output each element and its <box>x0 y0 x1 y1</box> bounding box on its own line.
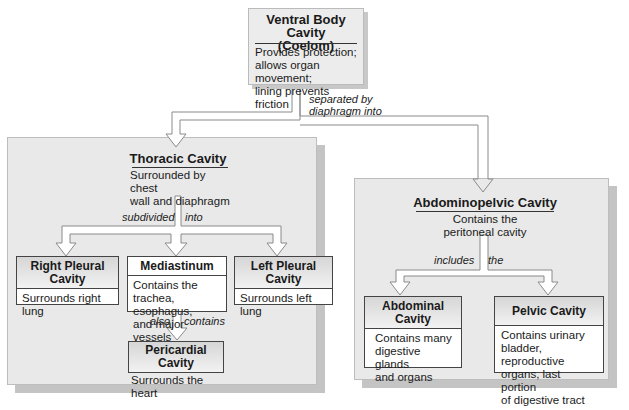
mediastinum-box: Mediastinum Contains the trachea, esopha… <box>127 256 227 312</box>
separated-by-line2: diaphragm into <box>309 105 382 117</box>
includes-label: includes <box>434 254 474 266</box>
pelvic-desc-line: Contains urinary <box>501 329 598 342</box>
ventral-desc-line: allows organ movement; <box>255 59 361 85</box>
abdominopelvic-description: Contains the peritoneal cavity <box>420 213 550 239</box>
pelvic-desc-line: bladder, reproductive <box>501 342 598 368</box>
thoracic-description: Surrounded by chest wall and diaphragm <box>130 169 230 208</box>
separated-by-label: separated by diaphragm into <box>309 93 382 117</box>
ventral-title-line1: Ventral Body Cavity <box>249 13 363 39</box>
right-pleural-title: Right Pleural Cavity <box>17 257 118 289</box>
abdominal-description: Contains many digestive glands and organ… <box>365 329 461 387</box>
pericardial-cavity-box: Pericardial Cavity Surrounds the heart <box>128 341 224 373</box>
pelvic-description: Contains urinary bladder, reproductive o… <box>495 326 603 410</box>
contains-label: contains <box>184 315 225 327</box>
left-pleural-cavity-box: Left Pleural Cavity Surrounds left lung <box>234 256 333 305</box>
separated-by-line1: separated by <box>309 93 382 105</box>
right-pleural-desc-line: Surrounds right <box>22 292 113 305</box>
abdominal-title: Abdominal Cavity <box>365 297 461 329</box>
right-pleural-desc-line: lung <box>22 305 113 318</box>
abdominal-desc-line: digestive glands <box>375 345 456 371</box>
left-pleural-desc-line: lung <box>240 305 327 318</box>
abdominal-cavity-box: Abdominal Cavity Contains many digestive… <box>364 296 462 368</box>
mediastinum-desc-line: Contains the <box>133 279 221 292</box>
subdivided-label: subdivided <box>122 211 175 223</box>
mediastinum-title: Mediastinum <box>128 257 226 276</box>
abdominal-desc-line: Contains many <box>375 332 456 345</box>
thoracic-title: Thoracic Cavity <box>120 151 236 166</box>
thoracic-desc-line: Surrounded by chest <box>130 169 230 195</box>
pelvic-cavity-box: Pelvic Cavity Contains urinary bladder, … <box>494 296 604 373</box>
pelvic-desc-line: organs, last portion <box>501 368 598 394</box>
ventral-desc-line: Provides protection; <box>255 46 361 59</box>
abdominopelvic-desc-line: peritoneal cavity <box>420 226 550 239</box>
mediastinum-description: Contains the trachea, esophagus, and maj… <box>128 276 226 347</box>
the-label: the <box>488 254 503 266</box>
left-pleural-desc-line: Surrounds left <box>240 292 327 305</box>
left-pleural-description: Surrounds left lung <box>235 289 332 321</box>
pericardial-description: Surrounds the heart <box>129 373 223 401</box>
pericardial-title: Pericardial Cavity <box>129 342 223 373</box>
abdominopelvic-title: Abdominopelvic Cavity <box>410 195 560 210</box>
also-label: also <box>150 315 170 327</box>
right-pleural-cavity-box: Right Pleural Cavity Surrounds right lun… <box>16 256 119 305</box>
ventral-title-rule <box>255 43 357 44</box>
thoracic-desc-line: wall and diaphragm <box>130 195 230 208</box>
abdominal-title-line2: Cavity <box>367 313 459 326</box>
ventral-body-cavity-box: Ventral Body Cavity (Coelom) Provides pr… <box>248 8 364 85</box>
abdominal-desc-line: and organs <box>375 371 456 384</box>
pelvic-title: Pelvic Cavity <box>495 297 603 326</box>
into-label: into <box>185 211 203 223</box>
pelvic-desc-line: of digestive tract <box>501 394 598 407</box>
abdominopelvic-title-rule <box>416 211 554 212</box>
thoracic-title-rule <box>132 167 228 168</box>
abdominopelvic-desc-line: Contains the <box>420 213 550 226</box>
right-pleural-description: Surrounds right lung <box>17 289 118 321</box>
left-pleural-title: Left Pleural Cavity <box>235 257 332 289</box>
